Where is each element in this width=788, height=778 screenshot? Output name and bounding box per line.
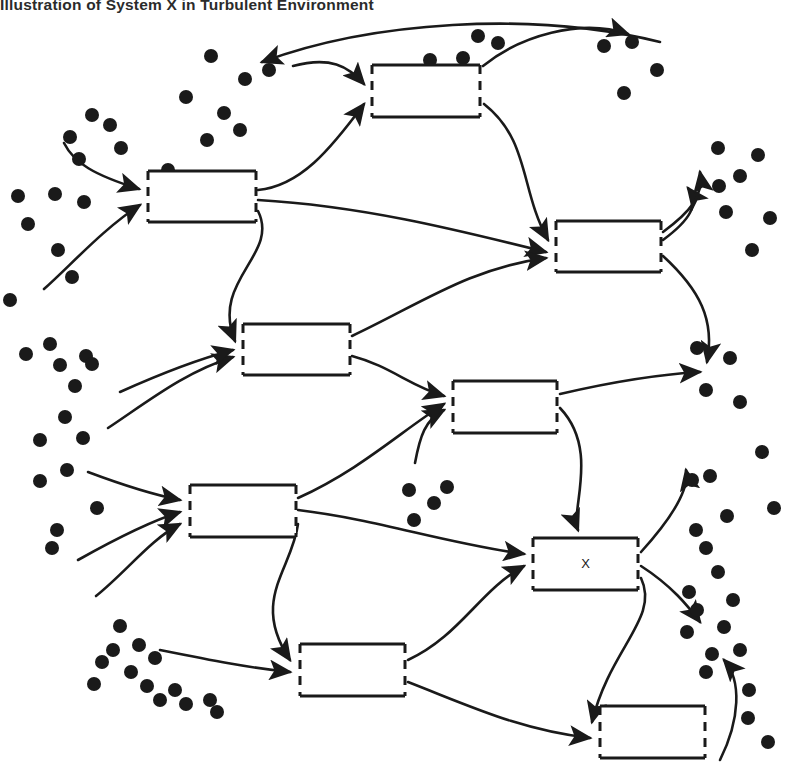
environment-dot	[68, 379, 82, 393]
environment-dot	[456, 51, 470, 65]
environment-dot	[124, 665, 138, 679]
environment-dot	[45, 541, 59, 555]
flow-arrow	[273, 524, 298, 660]
environment-dot	[690, 341, 704, 355]
environment-dot	[733, 643, 747, 657]
environment-dot	[60, 463, 74, 477]
environment-dot	[699, 665, 713, 679]
environment-dot	[33, 433, 47, 447]
environment-dot	[210, 705, 224, 719]
environment-dot	[148, 651, 162, 665]
environment-dot	[19, 347, 33, 361]
system-box[interactable]	[453, 381, 557, 433]
environment-dot	[179, 90, 193, 104]
flow-arrow	[108, 357, 233, 428]
flow-arrow	[484, 104, 548, 240]
system-box[interactable]	[148, 171, 256, 222]
environment-dot	[95, 655, 109, 669]
environment-dot	[703, 469, 717, 483]
environment-dot	[720, 509, 734, 523]
environment-dot	[21, 217, 35, 231]
system-box[interactable]	[372, 65, 480, 117]
system-box-fill	[300, 644, 405, 696]
environment-dot	[153, 693, 167, 707]
figure-container: Illustration of System X in Turbulent En…	[0, 0, 788, 778]
flow-arrow	[230, 211, 263, 341]
environment-dot	[3, 293, 17, 307]
environment-dot	[168, 683, 182, 697]
environment-dot	[711, 141, 725, 155]
environment-dot	[179, 697, 193, 711]
environment-dot	[63, 130, 77, 144]
environment-dot	[690, 603, 704, 617]
environment-dot	[402, 483, 416, 497]
system-box-fill	[190, 485, 296, 537]
environment-dot-layer	[3, 29, 781, 749]
environment-dot	[132, 638, 146, 652]
environment-dot	[761, 735, 775, 749]
environment-dot	[65, 270, 79, 284]
environment-dot	[767, 501, 781, 515]
flow-arrow	[352, 356, 444, 396]
environment-dot	[689, 523, 703, 537]
environment-dot	[233, 123, 247, 137]
environment-dot	[723, 351, 737, 365]
environment-dot	[238, 72, 252, 86]
flow-arrow	[160, 650, 290, 672]
environment-dot	[76, 431, 90, 445]
environment-dot	[617, 86, 631, 100]
systems-diagram-canvas: X	[0, 0, 788, 778]
system-box[interactable]: X	[533, 538, 638, 590]
flow-arrow	[663, 188, 693, 240]
environment-dot	[427, 496, 441, 510]
system-box-label: X	[581, 556, 590, 571]
environment-dot	[711, 565, 725, 579]
environment-dot	[204, 49, 218, 63]
flow-arrow	[293, 62, 364, 84]
environment-dot	[440, 480, 454, 494]
flow-arrow	[258, 200, 546, 252]
flow-arrow	[560, 408, 581, 530]
environment-dot	[140, 679, 154, 693]
environment-dot	[11, 189, 25, 203]
environment-dot	[682, 585, 696, 599]
environment-dot	[407, 513, 421, 527]
flow-arrow	[298, 404, 444, 498]
environment-dot	[745, 243, 759, 257]
environment-dot	[43, 337, 57, 351]
system-box[interactable]	[600, 706, 705, 758]
system-box-fill	[556, 221, 661, 272]
flow-arrow	[96, 524, 180, 596]
environment-dot	[741, 711, 755, 725]
flow-arrow	[641, 470, 687, 552]
environment-dot	[50, 523, 64, 537]
flow-arrow	[592, 578, 645, 722]
environment-dot	[200, 133, 214, 147]
environment-dot	[685, 473, 699, 487]
environment-dot	[85, 357, 99, 371]
system-box-fill	[243, 324, 350, 375]
environment-dot	[58, 410, 72, 424]
environment-dot	[203, 693, 217, 707]
environment-dot	[625, 35, 639, 49]
flow-arrow	[720, 660, 736, 760]
environment-dot	[726, 593, 740, 607]
environment-dot	[699, 541, 713, 555]
system-box[interactable]	[300, 644, 405, 696]
flow-arrow	[408, 682, 590, 738]
flow-arrow	[352, 258, 546, 336]
system-box[interactable]	[190, 485, 296, 537]
flow-arrow	[258, 104, 364, 190]
environment-dot	[719, 205, 733, 219]
environment-dot	[114, 141, 128, 155]
environment-dot	[471, 29, 485, 43]
system-box[interactable]	[556, 221, 661, 272]
system-box[interactable]	[243, 324, 350, 375]
environment-dot	[90, 501, 104, 515]
environment-dot	[87, 677, 101, 691]
environment-dot	[597, 39, 611, 53]
environment-dot	[51, 243, 65, 257]
environment-dot	[85, 108, 99, 122]
environment-dot	[48, 187, 62, 201]
flow-arrow	[64, 143, 139, 189]
